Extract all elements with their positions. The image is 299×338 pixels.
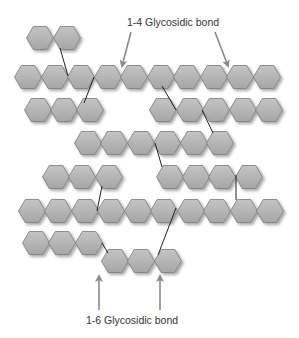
glucose-hexagon — [257, 200, 284, 223]
glucose-hexagon — [19, 200, 46, 223]
row-5-right — [157, 166, 263, 189]
label-1-4-glycosidic-bond: 1-4 Glycosidic bond — [127, 16, 219, 28]
label-1-6-glycosidic-bond: 1-6 Glycosidic bond — [86, 314, 178, 326]
glucose-hexagon — [76, 232, 103, 255]
arrow-1-4-left-icon — [122, 32, 131, 66]
row-8 — [102, 250, 182, 273]
glucose-hexagon — [77, 99, 104, 122]
glucose-hexagon — [23, 232, 50, 255]
row-3-right — [150, 99, 283, 122]
glucose-hexagon — [203, 99, 230, 122]
glucose-hexagon — [102, 250, 129, 273]
glucose-hexagon — [227, 66, 254, 89]
row-5-left — [43, 166, 123, 189]
glucose-hexagon — [75, 132, 102, 155]
bond-line — [102, 243, 108, 253]
glucose-hexagon — [128, 250, 155, 273]
glycogen-diagram: 1-4 Glycosidic bond 1-6 Glycosidic bond — [0, 0, 299, 338]
glucose-hexagon — [183, 166, 210, 189]
glucose-hexagon — [45, 200, 72, 223]
glucose-hexagon — [236, 166, 263, 189]
glucose-hexagon — [54, 27, 81, 50]
glucose-hexagon — [178, 200, 205, 223]
glucose-hexagon — [204, 200, 231, 223]
glucose-hexagon — [42, 66, 69, 89]
glucose-hexagon — [128, 132, 155, 155]
row-2 — [15, 66, 281, 89]
arrow-1-4-right-icon — [215, 32, 228, 66]
glucose-hexagon — [69, 166, 96, 189]
row-7 — [23, 232, 103, 255]
glucose-hexagon — [231, 200, 258, 223]
glucose-hexagon — [96, 166, 123, 189]
glucose-hexagon — [207, 132, 234, 155]
glucose-hexagon — [151, 200, 178, 223]
glucose-hexagon — [174, 66, 201, 89]
glucose-hexagon — [51, 99, 78, 122]
glucose-hexagon — [209, 166, 236, 189]
glucose-hexagon — [177, 99, 204, 122]
glucose-hexagon — [148, 66, 175, 89]
glucose-hexagon — [25, 99, 52, 122]
glucose-hexagon — [49, 232, 76, 255]
row-3-left — [25, 99, 104, 122]
glucose-hexagon — [27, 27, 54, 50]
glucose-hexagon — [201, 66, 228, 89]
glucose-hexagon — [157, 166, 184, 189]
glucose-hexagon — [43, 166, 70, 189]
glucose-hexagon — [125, 200, 152, 223]
glucose-hexagon — [256, 99, 283, 122]
row-6 — [19, 200, 284, 223]
glucose-hexagon — [15, 66, 42, 89]
glucose-hexagon — [98, 200, 125, 223]
glucose-hexagon — [101, 132, 128, 155]
glucose-hexagon — [95, 66, 122, 89]
glucose-hexagon — [121, 66, 148, 89]
glucose-hexagon — [230, 99, 257, 122]
glucose-hexagon — [72, 200, 99, 223]
glucose-hexagon — [181, 132, 208, 155]
row-4 — [75, 132, 234, 155]
glucose-units — [15, 27, 284, 273]
row-1 — [27, 27, 81, 50]
glucose-hexagon — [254, 66, 281, 89]
diagram-canvas — [0, 0, 299, 338]
glucose-hexagon — [150, 99, 177, 122]
